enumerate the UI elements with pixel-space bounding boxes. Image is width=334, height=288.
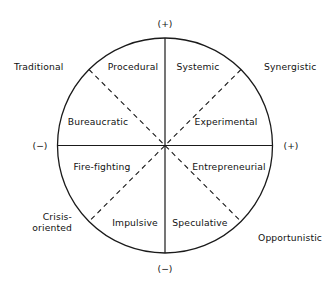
axis-marker-right: (+) [284,140,299,151]
sector-label-speculative: Speculative [172,217,227,228]
axis-marker-bottom: (−) [158,263,173,274]
sector-label-impulsive: Impulsive [112,217,158,228]
outer-label-traditional: Traditional [14,61,63,72]
sector-label-entrepreneurial: Entrepreneurial [192,161,266,172]
sector-label-fire-fighting: Fire-fighting [74,161,131,172]
outer-label-crisis-oriented: Crisis- oriented [32,211,72,233]
crisis-oriented-line-2: oriented [32,222,72,233]
sector-label-procedural: Procedural [108,61,158,72]
strategy-circle-diagram: (+) (−) (−) (+) Procedural Systemic Bure… [0,0,334,288]
outer-label-opportunistic: Opportunistic [258,232,322,243]
sector-label-systemic: Systemic [176,61,219,72]
sector-label-experimental: Experimental [194,116,257,127]
sector-label-bureaucratic: Bureaucratic [68,116,128,127]
axis-marker-top: (+) [158,18,173,29]
outer-label-synergistic: Synergistic [264,61,316,72]
axis-marker-left: (−) [33,140,48,151]
crisis-oriented-line-1: Crisis- [32,211,72,222]
